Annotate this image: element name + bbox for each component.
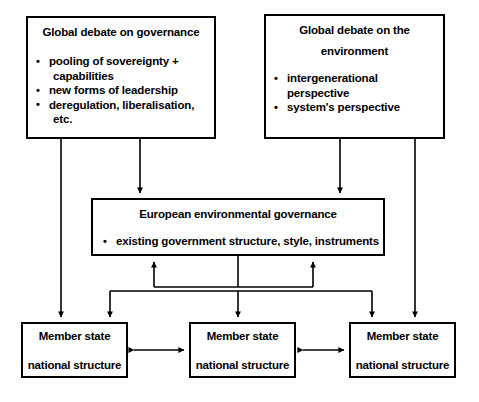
- member-state-title: Member state: [23, 330, 126, 343]
- member-state-subtitle: national structure: [351, 359, 454, 372]
- box-member-state-3: Member state national structure: [349, 322, 456, 378]
- list-item: new forms of leadership: [34, 83, 214, 98]
- box-member-state-2: Member state national structure: [189, 322, 296, 378]
- member-state-subtitle: national structure: [23, 359, 126, 372]
- bullet-continuation: etc.: [49, 112, 214, 127]
- list-item: existing government structure, style, in…: [101, 234, 383, 249]
- box-environment-title-line1: Global debate on the: [266, 23, 443, 37]
- bullet-text: system's perspective: [287, 101, 400, 113]
- box-global-debate-governance: Global debate on governance pooling of s…: [26, 16, 216, 139]
- diagram-canvas: Global debate on governance pooling of s…: [0, 0, 479, 402]
- list-item: deregulation, liberalisation, etc.: [34, 98, 214, 127]
- bullet-text: new forms of leadership: [49, 84, 178, 96]
- box-global-debate-environment: Global debate on the environment interge…: [264, 14, 445, 139]
- bullet-text: existing government structure, style, in…: [116, 235, 379, 247]
- bullet-text: deregulation, liberalisation,: [49, 99, 194, 111]
- box-governance-bullet-list: pooling of sovereignty + capabilities ne…: [28, 54, 214, 127]
- box-eeg-bullet-list: existing government structure, style, in…: [93, 234, 383, 249]
- member-state-subtitle: national structure: [191, 359, 294, 372]
- list-item: intergenerational perspective: [272, 71, 443, 100]
- box-governance-title: Global debate on governance: [28, 25, 214, 39]
- member-state-title: Member state: [351, 330, 454, 343]
- member-state-title: Member state: [191, 330, 294, 343]
- box-environment-title-line2: environment: [266, 44, 443, 58]
- box-european-environmental-governance: European environmental governance existi…: [91, 198, 385, 256]
- box-environment-bullet-list: intergenerational perspective system's p…: [266, 71, 443, 115]
- bullet-text: pooling of sovereignty +: [49, 55, 179, 67]
- box-eeg-title: European environmental governance: [93, 207, 383, 221]
- box-member-state-1: Member state national structure: [21, 322, 128, 378]
- bullet-continuation: capabilities: [49, 69, 214, 84]
- list-item: pooling of sovereignty + capabilities: [34, 54, 214, 83]
- bullet-text: intergenerational perspective: [287, 72, 378, 99]
- list-item: system's perspective: [272, 100, 443, 115]
